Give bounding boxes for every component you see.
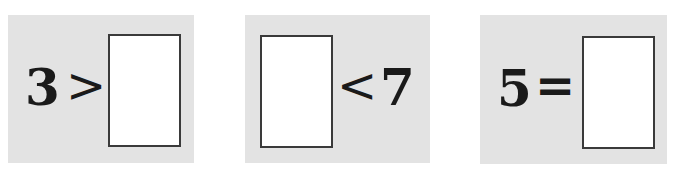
operator-equals: = bbox=[535, 61, 575, 109]
exercise-panel-2: < 7 bbox=[245, 15, 430, 163]
operator-greater-than: > bbox=[66, 61, 106, 109]
exercise-panel-1: 3 > bbox=[8, 15, 194, 163]
answer-box[interactable] bbox=[582, 36, 655, 149]
exercise-panel-3: 5 = bbox=[480, 15, 667, 164]
number-left: 5 bbox=[497, 64, 532, 114]
answer-box[interactable] bbox=[260, 35, 333, 148]
number-right: 7 bbox=[380, 63, 415, 113]
number-left: 3 bbox=[25, 63, 60, 113]
operator-less-than: < bbox=[337, 61, 377, 109]
answer-box[interactable] bbox=[108, 34, 181, 147]
